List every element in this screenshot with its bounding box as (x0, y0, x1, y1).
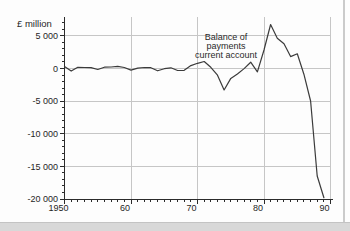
chart-canvas: £ million 5 000 0 -5 000 -10 000 -15 000… (0, 0, 350, 231)
y-axis-title: £ million (17, 18, 52, 29)
x-tick-label: 90 (319, 203, 329, 213)
x-tick-label: 70 (186, 203, 196, 213)
x-tick-labels: 1950 60 70 80 90 (48, 203, 329, 213)
y-tick-label: 0 (53, 64, 58, 74)
chart-figure: £ million 5 000 0 -5 000 -10 000 -15 000… (0, 0, 350, 231)
annotation-line: current account (195, 50, 258, 60)
axes (64, 17, 333, 200)
gridlines (65, 17, 331, 199)
y-tick-label: -10 000 (27, 129, 58, 139)
y-tick-labels: 5 000 0 -5 000 -10 000 -15 000 -20 000 (27, 31, 58, 204)
page-bottom-band (0, 222, 350, 231)
x-tick-label: 80 (253, 203, 263, 213)
x-tick-label: 1950 (48, 203, 68, 213)
page-edge-line (343, 0, 345, 231)
x-tick-label: 60 (120, 203, 130, 213)
y-tick-label: -5 000 (32, 96, 58, 106)
y-tick-label: -15 000 (27, 162, 58, 172)
y-tick-label: 5 000 (35, 31, 58, 41)
